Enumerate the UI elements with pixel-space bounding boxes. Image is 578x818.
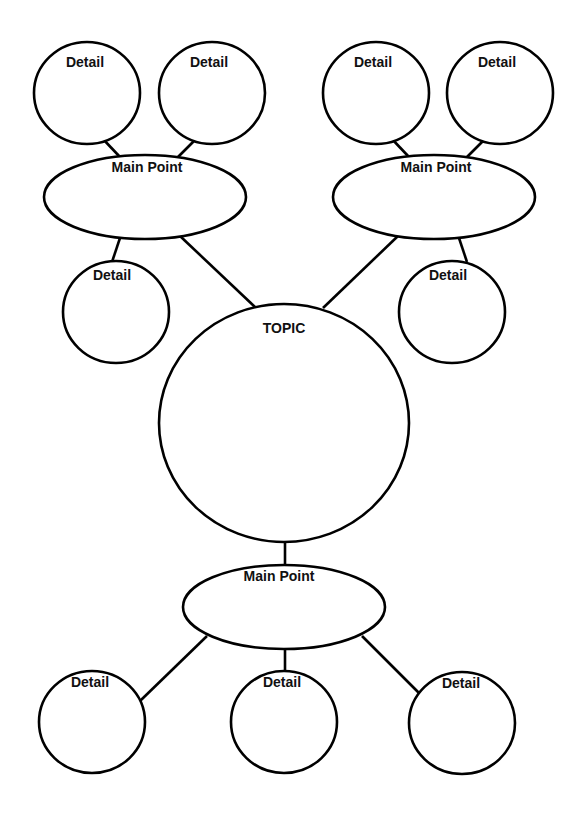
detail-label: Detail — [71, 674, 109, 690]
main-point-label: Main Point — [112, 159, 183, 175]
detail-label: Detail — [354, 54, 392, 70]
main-point-label: Main Point — [401, 159, 472, 175]
bubble-map-diagram: Detail Detail Main Point Detail Detail D… — [0, 0, 578, 818]
connector-mp3-detail1 — [140, 636, 207, 701]
connector-mp3-detail3 — [362, 636, 419, 693]
detail-label: Detail — [190, 54, 228, 70]
main-point-2-group: Detail Detail Main Point Detail — [323, 42, 553, 363]
detail-label: Detail — [478, 54, 516, 70]
topic-group: TOPIC — [159, 304, 409, 542]
detail-label: Detail — [66, 54, 104, 70]
detail-label: Detail — [93, 267, 131, 283]
topic-label: TOPIC — [263, 320, 306, 336]
detail-label: Detail — [429, 267, 467, 283]
main-point-3-group: Main Point Detail Detail Detail — [39, 565, 515, 774]
main-point-label: Main Point — [244, 568, 315, 584]
detail-label: Detail — [442, 675, 480, 691]
detail-label: Detail — [263, 674, 301, 690]
topic-circle — [159, 304, 409, 542]
connector-mp1-topic — [180, 236, 255, 307]
connector-mp2-topic — [323, 236, 398, 308]
